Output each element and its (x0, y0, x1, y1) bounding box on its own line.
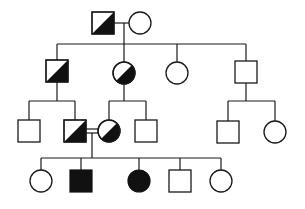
generation-2 (46, 44, 257, 101)
generation-4 (30, 158, 232, 192)
individual-III-6-female (264, 121, 286, 143)
individual-II-1-male-carrier (46, 60, 68, 82)
individual-IV-4-male (169, 170, 191, 192)
individual-III-1-male (18, 120, 40, 142)
individual-IV-3-female-affected (128, 170, 150, 192)
individual-III-5-male (217, 121, 239, 143)
individual-I-1-male-carrier (92, 12, 114, 34)
individual-III-2-male-carrier (64, 120, 86, 142)
individual-II-3-female (166, 62, 188, 84)
individual-II-2-female-carrier (113, 62, 135, 84)
individual-III-4-male (135, 120, 157, 142)
individual-II-4-male (235, 61, 257, 83)
individual-IV-2-male-affected (70, 170, 92, 192)
generation-3 (18, 101, 286, 158)
individual-IV-1-female (30, 170, 52, 192)
pedigree-chart (0, 0, 305, 209)
individual-IV-5-female (210, 170, 232, 192)
generation-1 (92, 12, 151, 44)
individual-I-2-female (129, 12, 151, 34)
individual-III-3-female-carrier (98, 120, 120, 142)
